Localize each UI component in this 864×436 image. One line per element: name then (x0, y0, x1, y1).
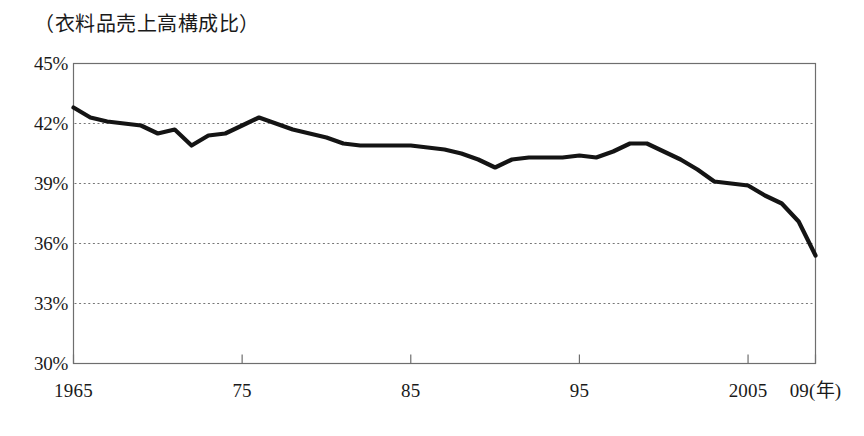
chart-container: （衣料品売上高構成比） 45%42%39%36%33%30% 196575859… (0, 0, 864, 436)
plot-frame (74, 64, 816, 364)
data-series-line (74, 108, 816, 256)
y-axis-tick-label: 39% (6, 174, 68, 193)
x-axis-ticks (74, 355, 816, 364)
series-line (74, 108, 816, 256)
x-axis-tick-label: 85 (356, 381, 466, 400)
chart-plot-area (0, 0, 864, 436)
plot-border (74, 64, 816, 364)
x-axis-tick-label: 75 (187, 381, 297, 400)
y-axis-tick-label: 36% (6, 234, 68, 253)
y-axis-tick-label: 33% (6, 294, 68, 313)
x-axis-tick-label: 95 (524, 381, 634, 400)
y-axis-tick-label: 45% (6, 54, 68, 73)
x-axis-tick-label: 1965 (19, 381, 129, 400)
y-axis-tick-label: 42% (6, 114, 68, 133)
x-axis-tick-label: 09(年) (761, 381, 864, 400)
y-axis-tick-label: 30% (6, 354, 68, 373)
